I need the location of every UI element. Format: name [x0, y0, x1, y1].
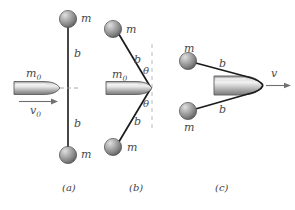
panel-a-bullet-mass-sub: 0	[36, 73, 41, 82]
panel-b-mass-bottom-label: m	[127, 142, 137, 153]
panel-a-bullet-mass-base: m	[26, 67, 36, 80]
panel-a-mass-bottom-label: m	[81, 149, 91, 160]
panel-b-mass-top-sphere	[104, 20, 121, 37]
panel-c-velocity-arrow	[266, 83, 291, 88]
panel-c-velocity-label: v	[271, 68, 277, 79]
panel-b-string-bottom-label: b	[134, 116, 141, 127]
panel-a-string-bottom-label: b	[74, 118, 81, 129]
physics-figure-ballistic-pendulum: m b b m m0 v0 m b θ m0 θ b m m b b m v (…	[0, 0, 295, 210]
panel-a-velocity-label: v0	[30, 105, 41, 119]
panel-a-mass-top-label: m	[81, 13, 91, 24]
panel-b-angle-bottom-label: θ	[143, 99, 149, 109]
panel-c-mass-bottom-sphere	[179, 102, 196, 119]
panel-b-bullet-mass-label: m0	[112, 69, 127, 83]
panel-c-string-top-label: b	[219, 58, 226, 69]
panel-c-graphics	[179, 52, 291, 119]
panel-b-bullet-mass-base: m	[112, 68, 122, 81]
panel-a-velocity-sub: 0	[36, 110, 41, 119]
panel-b-angle-top-label: θ	[143, 66, 149, 76]
panel-c-mass-top-label: m	[184, 43, 194, 54]
panel-a-velocity-arrow	[19, 99, 58, 105]
panel-a-bullet-mass-label: m0	[26, 68, 41, 82]
panel-b-caption: (b)	[129, 183, 143, 193]
panel-b-string-top-label: b	[134, 54, 141, 65]
panel-a-string-top-label: b	[74, 48, 81, 59]
panel-a-mass-bottom-sphere	[59, 146, 76, 163]
panel-a-graphics	[14, 10, 80, 163]
panel-a-bullet	[14, 82, 60, 95]
panel-b-bullet	[106, 82, 152, 95]
panel-b-bullet-mass-sub: 0	[122, 74, 127, 83]
panel-a-caption: (a)	[62, 183, 76, 193]
panel-b-mass-bottom-sphere	[104, 138, 121, 155]
panel-b-mass-top-label: m	[126, 24, 136, 35]
panel-c-caption: (c)	[215, 183, 228, 193]
panel-c-string-bottom-label: b	[219, 104, 226, 115]
panel-b-graphics	[104, 20, 152, 155]
panel-c-mass-bottom-label: m	[184, 122, 194, 133]
panel-a-mass-top-sphere	[59, 10, 76, 27]
